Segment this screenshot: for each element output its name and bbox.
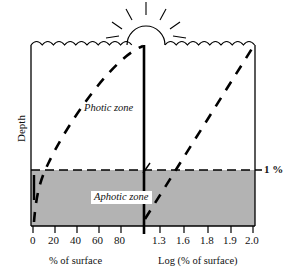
photic-zone-label: Photic zone — [84, 103, 133, 114]
figure-canvas — [0, 0, 285, 278]
sun-icon — [106, 2, 186, 45]
tick-label-40: 40 — [70, 235, 81, 246]
tick-label-80: 80 — [114, 235, 125, 246]
left-axis-caption: % of surface — [49, 256, 102, 267]
right-axis-caption: Log (% of surface) — [158, 256, 238, 267]
tick-label-0: 0 — [30, 235, 36, 246]
one-percent-label: 1 % — [264, 164, 283, 175]
tick-label-60: 60 — [92, 235, 103, 246]
aphotic-zone-label: Aphotic zone — [91, 191, 152, 204]
tick-label-1-8: 1.8 — [200, 235, 214, 246]
tick-label-1-3: 1.3 — [152, 235, 166, 246]
depth-axis-label: Depth — [16, 115, 27, 142]
tick-label-20: 20 — [48, 235, 59, 246]
ocean-light-penetration-figure: Depth Photic zone Aphotic zone 1 % 0 20 … — [0, 0, 285, 278]
tick-label-1-9: 1.9 — [223, 235, 237, 246]
tick-label-2-0: 2.0 — [245, 235, 259, 246]
tick-label-1-6: 1.6 — [176, 235, 190, 246]
